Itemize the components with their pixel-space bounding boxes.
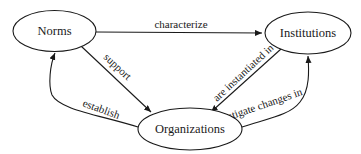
concept-diagram: characterize support are instantiated in… xyxy=(0,0,361,154)
node-institutions: Institutions xyxy=(265,12,351,54)
node-institutions-label: Institutions xyxy=(280,26,336,40)
node-norms: Norms xyxy=(13,11,96,52)
node-organizations-label: Organizations xyxy=(155,122,225,136)
edge-label-are-instantiated-in: are instantiated in xyxy=(210,41,276,103)
node-organizations: Organizations xyxy=(138,108,242,150)
edge-label-support: support xyxy=(102,51,134,82)
arrow-characterize xyxy=(96,32,262,33)
edge-label-characterize: characterize xyxy=(154,18,207,30)
edge-characterize: characterize xyxy=(96,18,262,33)
node-norms-label: Norms xyxy=(37,24,71,38)
